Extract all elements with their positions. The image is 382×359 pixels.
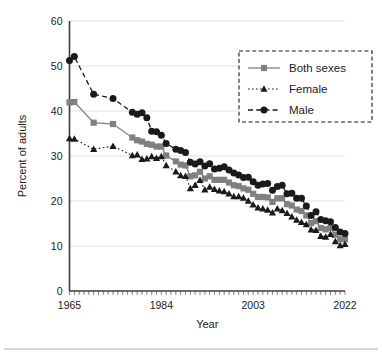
data-point-2-11 [163,140,170,147]
y-tick-label-20: 20 [51,195,63,207]
x-tick-label-1984: 1984 [150,299,174,311]
y-tick-label-0: 0 [57,285,63,297]
data-point-2-1 [71,53,78,60]
y-tick-label-40: 40 [51,105,63,117]
data-point-2-31 [264,180,271,187]
data-point-0-17 [197,169,203,175]
legend-marker-circle [261,107,268,114]
chart-legend: Both sexesFemaleMale [239,51,372,122]
x-tick-labels: 1965198420032022 [58,299,357,311]
data-point-1-1 [71,135,78,142]
data-point-2-34 [279,182,286,189]
x-tick-label-2022: 2022 [333,299,357,311]
data-point-2-2 [90,91,97,98]
data-point-0-2 [91,120,97,126]
data-point-2-39 [303,202,310,209]
x-tick-label-2003: 2003 [241,299,265,311]
data-point-2-7 [143,114,150,121]
y-tick-label-10: 10 [51,240,63,252]
data-point-0-3 [110,121,116,127]
data-point-2-47 [342,230,349,237]
data-point-1-22 [221,188,228,195]
y-axis-title: Percent of adults [16,114,28,197]
legend-label-0: Both sexes [289,62,346,74]
data-point-1-30 [259,205,266,212]
data-point-1-33 [274,205,281,212]
data-point-1-3 [109,142,116,149]
data-point-1-5 [134,151,141,158]
legend-label-2: Male [289,104,314,116]
chart-figure: 0102030405060 1965198420032022 Percent o… [0,0,382,359]
data-point-2-41 [313,208,320,215]
data-point-2-3 [110,95,117,102]
data-point-1-19 [206,183,213,190]
series-female [66,135,349,249]
legend-label-1: Female [289,83,327,95]
data-point-2-19 [206,160,213,167]
data-point-2-38 [298,195,305,202]
y-tick-label-50: 50 [51,60,63,72]
data-point-0-34 [279,195,285,201]
data-point-1-11 [163,162,170,169]
x-axis-title: Year [196,318,219,330]
data-point-1-25 [235,193,242,200]
data-point-2-44 [327,218,334,225]
legend-marker-square [261,65,267,71]
data-point-0-1 [71,99,77,105]
x-tick-label-1965: 1965 [58,299,82,311]
data-point-2-10 [158,132,165,139]
y-tick-labels: 0102030405060 [51,15,63,297]
y-tick-label-60: 60 [51,15,63,27]
smoking-prevalence-line-chart: 0102030405060 1965198420032022 Percent o… [0,0,382,359]
data-point-1-12 [172,168,179,175]
y-tick-label-30: 30 [51,150,63,162]
data-point-2-14 [182,149,189,156]
